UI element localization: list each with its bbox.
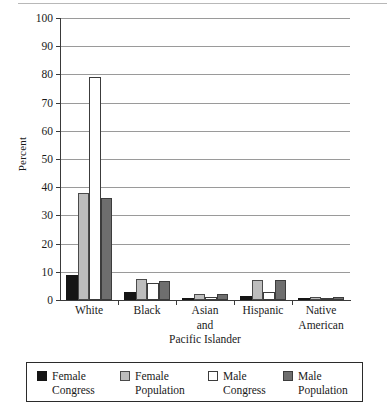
y-axis-tick: 20 xyxy=(60,244,61,245)
y-axis-tick: 0 xyxy=(60,300,61,301)
bar xyxy=(240,296,252,300)
gridline xyxy=(61,74,350,75)
gridline xyxy=(61,103,350,104)
y-axis-tick-mark xyxy=(56,74,61,75)
y-axis-tick-label: 90 xyxy=(42,40,54,52)
bar xyxy=(147,283,159,300)
bar xyxy=(66,275,78,300)
y-axis-tick: 40 xyxy=(60,187,61,188)
legend-item: MalePopulation xyxy=(283,369,348,397)
y-axis-tick-mark xyxy=(56,18,61,19)
chart-legend: FemaleCongressFemalePopulationMaleCongre… xyxy=(26,362,363,402)
bar xyxy=(217,294,229,300)
plot-wrapper: 0102030405060708090100 xyxy=(60,18,350,300)
gridline xyxy=(61,131,350,132)
bar xyxy=(194,294,206,300)
y-axis-tick: 50 xyxy=(60,159,61,160)
x-axis-line xyxy=(60,300,351,301)
legend-item: FemaleCongress xyxy=(37,369,95,397)
y-axis-tick-mark xyxy=(56,215,61,216)
legend-item: MaleCongress xyxy=(208,369,266,397)
bar xyxy=(275,280,287,300)
y-axis-tick-label: 100 xyxy=(36,12,53,24)
bar xyxy=(101,198,113,300)
gridline xyxy=(61,159,350,160)
x-axis-category-label: NativeAmerican xyxy=(280,303,362,332)
y-axis-tick-label: 80 xyxy=(42,68,54,80)
bar xyxy=(263,292,275,300)
y-axis-tick-mark xyxy=(56,272,61,273)
y-axis-tick-mark xyxy=(56,187,61,188)
x-axis-category-labels: WhiteBlackAsianandPacific IslanderHispan… xyxy=(60,303,351,355)
y-axis-tick-label: 20 xyxy=(42,238,54,250)
legend-swatch-icon xyxy=(37,371,47,381)
gridline xyxy=(61,18,350,19)
y-axis-tick-mark xyxy=(56,46,61,47)
legend-swatch-icon xyxy=(283,371,293,381)
legend-label: MaleCongress xyxy=(223,369,266,397)
y-axis-tick-mark xyxy=(56,244,61,245)
y-axis-tick: 100 xyxy=(60,18,61,19)
y-axis-tick-label: 50 xyxy=(42,153,54,165)
y-axis-tick: 60 xyxy=(60,131,61,132)
legend-label: MalePopulation xyxy=(298,369,348,397)
plot-area: 0102030405060708090100 xyxy=(60,18,350,300)
y-axis-label: Percent xyxy=(16,114,28,194)
y-axis-tick-mark xyxy=(56,300,61,301)
y-axis-tick-label: 70 xyxy=(42,97,54,109)
y-axis-tick-mark xyxy=(56,103,61,104)
bar xyxy=(333,297,345,300)
bar xyxy=(78,193,90,300)
bar xyxy=(205,297,217,300)
y-axis-tick: 10 xyxy=(60,272,61,273)
bar-chart-figure: Percent 0102030405060708090100 WhiteBlac… xyxy=(0,0,387,417)
y-axis-tick: 70 xyxy=(60,103,61,104)
legend-label: FemaleCongress xyxy=(52,369,95,397)
bar xyxy=(310,297,322,300)
y-axis-tick: 90 xyxy=(60,46,61,47)
y-axis-tick-mark xyxy=(56,159,61,160)
y-axis-tick-label: 10 xyxy=(42,266,54,278)
bar xyxy=(298,298,310,300)
legend-swatch-icon xyxy=(120,371,130,381)
y-axis-tick-label: 60 xyxy=(42,125,54,137)
y-axis-tick-mark xyxy=(56,131,61,132)
legend-swatch-icon xyxy=(208,371,218,381)
gridline xyxy=(61,46,350,47)
bar xyxy=(252,280,264,300)
y-axis-tick-label: 40 xyxy=(42,181,54,193)
legend-label: FemalePopulation xyxy=(135,369,185,397)
bar xyxy=(182,298,194,300)
y-axis-tick-label: 30 xyxy=(42,209,54,221)
gridline xyxy=(61,187,350,188)
legend-items-container: FemaleCongressFemalePopulationMaleCongre… xyxy=(27,363,362,401)
bar xyxy=(89,77,101,300)
y-axis-tick: 80 xyxy=(60,74,61,75)
bar xyxy=(321,298,333,300)
bar xyxy=(136,279,148,300)
bar xyxy=(159,281,171,300)
y-axis-tick: 30 xyxy=(60,215,61,216)
legend-item: FemalePopulation xyxy=(120,369,185,397)
bar xyxy=(124,292,136,300)
scan-artifact-line xyxy=(18,3,387,4)
